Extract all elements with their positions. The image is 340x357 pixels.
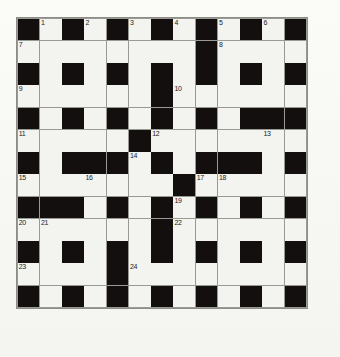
grid-cell[interactable] xyxy=(262,219,284,241)
grid-cell[interactable] xyxy=(218,219,240,241)
grid-cell[interactable] xyxy=(40,108,62,130)
grid-cell[interactable] xyxy=(262,152,284,174)
grid-cell[interactable] xyxy=(151,41,173,63)
grid-cell[interactable] xyxy=(262,41,284,63)
grid-cell[interactable] xyxy=(218,63,240,85)
grid-cell[interactable]: 4 xyxy=(173,19,195,41)
grid-cell[interactable] xyxy=(62,85,84,107)
grid-cell[interactable] xyxy=(107,130,129,152)
grid-cell[interactable] xyxy=(129,241,151,263)
grid-cell[interactable] xyxy=(262,197,284,219)
grid-cell[interactable]: 17 xyxy=(196,174,218,196)
grid-cell[interactable] xyxy=(173,108,195,130)
grid-cell[interactable] xyxy=(240,174,262,196)
grid-cell[interactable] xyxy=(151,263,173,285)
grid-cell[interactable]: 22 xyxy=(173,219,195,241)
grid-cell[interactable] xyxy=(129,41,151,63)
grid-cell[interactable] xyxy=(151,174,173,196)
grid-cell[interactable] xyxy=(173,152,195,174)
grid-cell[interactable] xyxy=(218,286,240,308)
grid-cell[interactable] xyxy=(218,85,240,107)
grid-cell[interactable] xyxy=(84,130,106,152)
grid-cell[interactable] xyxy=(40,263,62,285)
grid-cell[interactable] xyxy=(218,263,240,285)
grid-cell[interactable]: 3 xyxy=(129,19,151,41)
grid-cell[interactable] xyxy=(173,63,195,85)
grid-cell[interactable] xyxy=(218,241,240,263)
grid-cell[interactable] xyxy=(218,197,240,219)
grid-cell[interactable]: 16 xyxy=(84,174,106,196)
grid-cell[interactable] xyxy=(196,85,218,107)
grid-cell[interactable] xyxy=(262,241,284,263)
grid-cell[interactable] xyxy=(129,85,151,107)
grid-cell[interactable] xyxy=(84,286,106,308)
grid-cell[interactable] xyxy=(84,63,106,85)
grid-cell[interactable] xyxy=(40,174,62,196)
grid-cell[interactable] xyxy=(107,219,129,241)
grid-cell[interactable] xyxy=(262,85,284,107)
grid-cell[interactable]: 9 xyxy=(18,85,40,107)
grid-cell[interactable] xyxy=(40,85,62,107)
grid-cell[interactable] xyxy=(173,286,195,308)
grid-cell[interactable] xyxy=(107,85,129,107)
grid-cell[interactable] xyxy=(129,108,151,130)
grid-cell[interactable] xyxy=(196,130,218,152)
grid-cell[interactable]: 12 xyxy=(151,130,173,152)
grid-cell[interactable] xyxy=(62,130,84,152)
grid-cell[interactable]: 15 xyxy=(18,174,40,196)
grid-cell[interactable]: 14 xyxy=(129,152,151,174)
grid-cell[interactable]: 19 xyxy=(173,197,195,219)
grid-cell[interactable] xyxy=(262,63,284,85)
grid-cell[interactable]: 24 xyxy=(129,263,151,285)
grid-cell[interactable] xyxy=(240,130,262,152)
grid-cell[interactable]: 6 xyxy=(262,19,284,41)
grid-cell[interactable] xyxy=(285,174,307,196)
grid-cell[interactable] xyxy=(129,174,151,196)
grid-cell[interactable] xyxy=(40,130,62,152)
grid-cell[interactable] xyxy=(107,174,129,196)
grid-cell[interactable]: 13 xyxy=(262,130,284,152)
crossword-grid[interactable]: 123456789101112131415161718192021222324 xyxy=(17,18,307,308)
grid-cell[interactable] xyxy=(285,85,307,107)
grid-cell[interactable] xyxy=(84,241,106,263)
grid-cell[interactable] xyxy=(173,263,195,285)
grid-cell[interactable] xyxy=(62,41,84,63)
grid-cell[interactable] xyxy=(40,152,62,174)
grid-cell[interactable] xyxy=(40,41,62,63)
grid-cell[interactable] xyxy=(285,263,307,285)
grid-cell[interactable] xyxy=(262,286,284,308)
grid-cell[interactable] xyxy=(285,41,307,63)
grid-cell[interactable] xyxy=(196,219,218,241)
grid-cell[interactable] xyxy=(129,197,151,219)
grid-cell[interactable] xyxy=(84,108,106,130)
grid-cell[interactable] xyxy=(240,219,262,241)
grid-cell[interactable] xyxy=(129,219,151,241)
grid-cell[interactable] xyxy=(262,174,284,196)
grid-cell[interactable]: 21 xyxy=(40,219,62,241)
grid-cell[interactable]: 20 xyxy=(18,219,40,241)
grid-cell[interactable] xyxy=(62,219,84,241)
grid-cell[interactable] xyxy=(107,41,129,63)
grid-cell[interactable] xyxy=(262,263,284,285)
grid-cell[interactable] xyxy=(285,130,307,152)
grid-cell[interactable] xyxy=(84,219,106,241)
grid-cell[interactable] xyxy=(240,41,262,63)
grid-cell[interactable]: 8 xyxy=(218,41,240,63)
grid-cell[interactable] xyxy=(173,241,195,263)
grid-cell[interactable]: 10 xyxy=(173,85,195,107)
grid-cell[interactable] xyxy=(84,85,106,107)
grid-cell[interactable] xyxy=(218,108,240,130)
grid-cell[interactable] xyxy=(285,219,307,241)
grid-cell[interactable] xyxy=(240,263,262,285)
grid-cell[interactable] xyxy=(62,174,84,196)
grid-cell[interactable] xyxy=(84,263,106,285)
grid-cell[interactable] xyxy=(173,41,195,63)
grid-cell[interactable] xyxy=(129,286,151,308)
grid-cell[interactable] xyxy=(40,241,62,263)
grid-cell[interactable] xyxy=(129,63,151,85)
grid-cell[interactable] xyxy=(173,130,195,152)
grid-cell[interactable]: 11 xyxy=(18,130,40,152)
grid-cell[interactable] xyxy=(218,130,240,152)
grid-cell[interactable] xyxy=(240,85,262,107)
grid-cell[interactable] xyxy=(84,197,106,219)
